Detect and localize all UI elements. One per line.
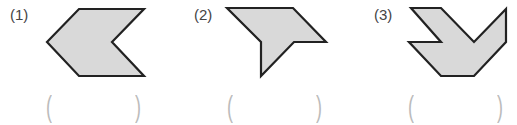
shape-3 (409, 8, 506, 76)
problem-1-label: (1) (10, 6, 28, 23)
answer-2-open-paren: ( (227, 90, 233, 124)
problem-2-label: (2) (194, 6, 212, 23)
answer-1-close-paren: ) (135, 90, 141, 124)
answer-3-close-paren: ) (497, 90, 503, 124)
answer-1-open-paren: ( (46, 90, 52, 124)
problem-3-label: (3) (374, 6, 392, 23)
shape-1 (47, 9, 144, 76)
shapes-canvas (0, 0, 517, 125)
answer-3-open-paren: ( (408, 90, 414, 124)
answer-2-close-paren: ) (316, 90, 322, 124)
shape-2 (227, 8, 326, 76)
